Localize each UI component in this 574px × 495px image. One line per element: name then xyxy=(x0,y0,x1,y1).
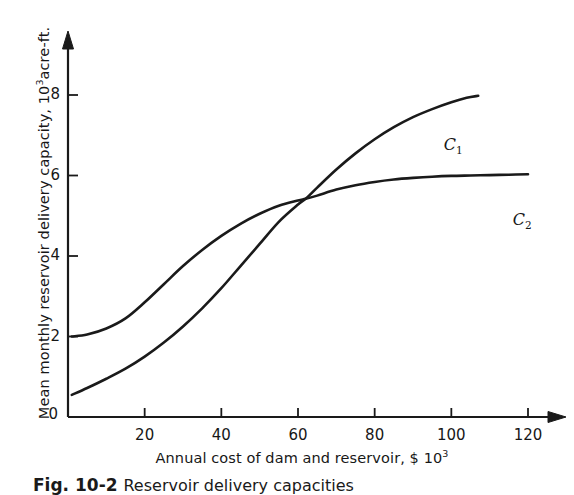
x-axis-title-text: Annual cost of dam and reservoir, $ 10 xyxy=(156,450,443,466)
y-tick-label-4: 4 xyxy=(34,248,60,263)
curve-label-letter: C xyxy=(513,210,525,229)
x-tick-label-20: 20 xyxy=(125,428,165,443)
curve-label-subscript: 2 xyxy=(525,219,532,231)
x-tick-label-80: 80 xyxy=(355,428,395,443)
figure-caption: Fig. 10-2 Reservoir delivery capacities xyxy=(33,475,573,495)
curve-label-letter: C xyxy=(444,135,456,154)
curve-c2 xyxy=(72,174,528,336)
curve-label-c1: C1 xyxy=(444,137,463,153)
y-tick-label-2: 2 xyxy=(34,329,60,344)
curve-label-c2: C2 xyxy=(513,212,532,228)
y-axis-title-exponent: 3 xyxy=(34,79,45,85)
y-axis-title: Mean monthly reservoir delivery capacity… xyxy=(36,13,52,433)
y-axis-ticks xyxy=(68,95,78,337)
x-axis xyxy=(68,412,566,423)
x-tick-label-60: 60 xyxy=(278,428,318,443)
x-axis-title-exponent: 3 xyxy=(442,448,448,459)
x-tick-label-120: 120 xyxy=(508,428,548,443)
y-axis xyxy=(63,31,74,417)
caption-figure-number: Fig. 10-2 xyxy=(33,475,118,495)
origin-label: 0 xyxy=(34,407,58,422)
y-tick-label-6: 6 xyxy=(34,168,60,183)
x-tick-label-100: 100 xyxy=(431,428,471,443)
caption-text: Reservoir delivery capacities xyxy=(123,476,353,495)
x-tick-label-40: 40 xyxy=(201,428,241,443)
x-axis-arrowhead xyxy=(548,412,566,423)
x-axis-ticks xyxy=(145,408,528,417)
curve-c1 xyxy=(72,96,478,395)
y-tick-label-8: 8 xyxy=(34,87,60,102)
curve-label-subscript: 1 xyxy=(456,144,463,156)
y-axis-arrowhead xyxy=(63,31,74,49)
y-axis-title-tail: acre-ft. xyxy=(36,27,52,80)
x-axis-title: Annual cost of dam and reservoir, $ 103 xyxy=(0,450,574,466)
